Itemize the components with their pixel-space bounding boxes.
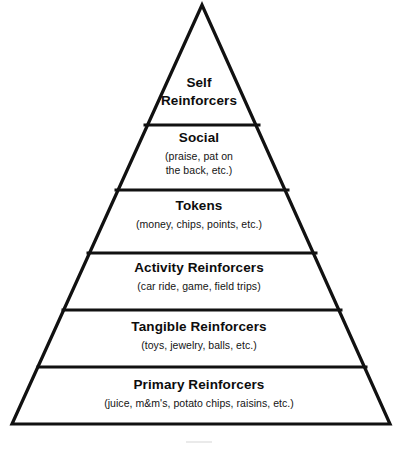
pyramid-level-primary-reinforcers: Primary Reinforcers (juice, m&m's, potat… — [0, 378, 398, 410]
pyramid-level-2-title: Social — [0, 131, 398, 145]
pyramid-level-5-subtitle: (toys, jewelry, balls, etc.) — [0, 338, 398, 352]
pyramid-level-activity-reinforcers: Activity Reinforcers (car ride, game, fi… — [0, 261, 398, 293]
scan-artifact-mark — [186, 441, 212, 443]
pyramid-level-2-subtitle-line-1: (praise, pat on — [0, 149, 398, 163]
pyramid-diagram: Self Reinforcers Social (praise, pat on … — [0, 0, 398, 450]
pyramid-level-3-subtitle: (money, chips, points, etc.) — [0, 217, 398, 231]
pyramid-level-tangible-reinforcers: Tangible Reinforcers (toys, jewelry, bal… — [0, 320, 398, 352]
pyramid-level-1-title-line-2: Reinforcers — [0, 92, 398, 110]
pyramid-level-2-subtitle-line-2: the back, etc.) — [0, 163, 398, 177]
pyramid-label-layer: Self Reinforcers Social (praise, pat on … — [0, 0, 398, 450]
pyramid-level-tokens: Tokens (money, chips, points, etc.) — [0, 199, 398, 231]
pyramid-level-1-title-line-1: Self — [0, 74, 398, 92]
pyramid-level-social: Social (praise, pat on the back, etc.) — [0, 131, 398, 177]
pyramid-level-self-reinforcers: Self Reinforcers — [0, 74, 398, 110]
pyramid-level-4-subtitle: (car ride, game, field trips) — [0, 279, 398, 293]
pyramid-level-5-title: Tangible Reinforcers — [0, 320, 398, 334]
pyramid-level-6-title: Primary Reinforcers — [0, 378, 398, 392]
pyramid-level-3-title: Tokens — [0, 199, 398, 213]
pyramid-level-4-title: Activity Reinforcers — [0, 261, 398, 275]
pyramid-level-6-subtitle: (juice, m&m's, potato chips, raisins, et… — [0, 396, 398, 410]
